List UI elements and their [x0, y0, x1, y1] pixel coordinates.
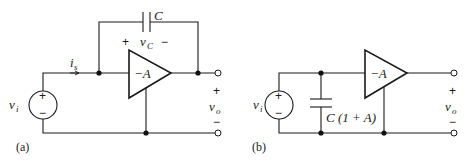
vc-sub: C [147, 41, 154, 51]
current-sub: s [74, 62, 78, 72]
vc-label: v [140, 34, 146, 49]
output-label: v [209, 99, 215, 114]
node-capacitor-top [318, 70, 323, 75]
node-input [96, 70, 101, 75]
circuit-figure: C + v C − i s + − v i −A + v o − (a) [0, 0, 476, 163]
output-plus: + [213, 84, 220, 98]
amplifier-gain: −A [134, 66, 151, 81]
output-minus: − [449, 115, 456, 129]
input-wire [279, 73, 365, 91]
source-plus: + [275, 89, 282, 103]
input-wire [43, 73, 129, 91]
source-minus: − [39, 106, 46, 120]
source-sub: i [16, 104, 19, 114]
output-terminal-bottom [215, 130, 221, 136]
source-plus: + [39, 89, 46, 103]
capacitor-label: C (1 + A) [326, 110, 376, 125]
source-label: v [9, 97, 15, 112]
ground-wire [43, 119, 215, 133]
output-terminal-bottom [451, 130, 457, 136]
vc-plus: + [122, 35, 129, 49]
node-capacitor-bottom [318, 130, 323, 135]
capacitor-label: C [154, 8, 163, 23]
source-sub: i [260, 104, 263, 114]
amplifier-gain: −A [370, 66, 387, 81]
output-minus: − [213, 115, 220, 129]
panel-b: C (1 + A) + − v i −A + v o − (b) [252, 50, 457, 154]
output-terminal-top [451, 70, 457, 76]
feedback-capacitor [143, 12, 150, 32]
node-ground [381, 130, 386, 135]
panel-a-label: (a) [16, 140, 29, 154]
shunt-capacitor [310, 99, 332, 107]
output-plus: + [449, 84, 456, 98]
output-terminal-top [215, 70, 221, 76]
source-label: v [253, 97, 259, 112]
panel-a: C + v C − i s + − v i −A + v o − (a) [9, 8, 221, 154]
panel-b-label: (b) [252, 140, 266, 154]
node-output [195, 70, 200, 75]
vc-minus: − [161, 35, 168, 49]
source-minus: − [275, 106, 282, 120]
output-label: v [445, 99, 451, 114]
node-ground [143, 130, 148, 135]
